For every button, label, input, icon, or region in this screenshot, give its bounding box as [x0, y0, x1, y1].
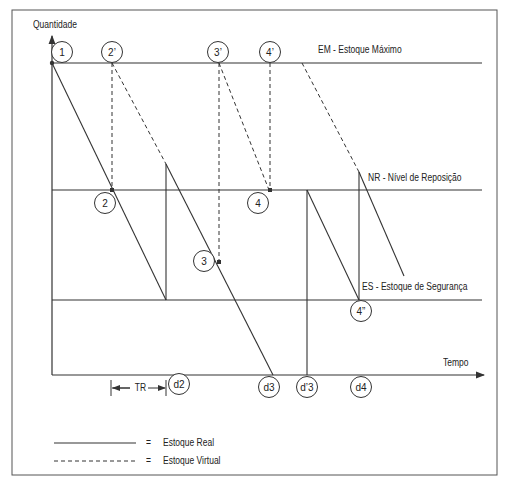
point-3-dot: [217, 260, 221, 264]
date-d4-circle: d4: [350, 376, 372, 398]
nr-label: NR - Nível de Reposição: [368, 172, 462, 183]
tr-label: TR: [133, 382, 148, 393]
y-axis-label: Quantidade: [33, 19, 77, 30]
point-3-circle: 3: [193, 250, 215, 272]
legend-dashed-label: Estoque Virtual: [163, 455, 220, 466]
point-4doubleprime-circle: 4”: [350, 300, 372, 322]
point-4-circle: 4: [247, 192, 269, 214]
real-stock-series: [52, 63, 404, 375]
legend-dashed-equals: =: [146, 455, 151, 466]
date-dprime3-circle: d’3: [296, 376, 318, 398]
outer-frame: [12, 10, 497, 475]
em-label: EM - Estoque Máximo: [318, 44, 402, 55]
legend-solid-label: Estoque Real: [163, 437, 214, 448]
x-axis-label: Tempo: [443, 357, 469, 368]
point-4-dot: [268, 188, 272, 192]
date-d3-circle: d3: [258, 376, 280, 398]
inventory-diagram-canvas: [0, 0, 514, 485]
legend-solid-equals: =: [146, 437, 151, 448]
date-d2-circle: d2: [168, 373, 190, 395]
virtual-stock-series: [112, 63, 359, 262]
es-label: ES - Estoque de Segurança: [362, 281, 467, 292]
point-1-circle: 1: [51, 41, 73, 63]
point-2-circle: 2: [94, 192, 116, 214]
point-2-dot: [110, 188, 114, 192]
point-4prime-circle: 4’: [259, 41, 281, 63]
point-2prime-circle: 2’: [101, 41, 123, 63]
point-3prime-circle: 3’: [207, 41, 229, 63]
point-1-dot: [50, 61, 54, 65]
